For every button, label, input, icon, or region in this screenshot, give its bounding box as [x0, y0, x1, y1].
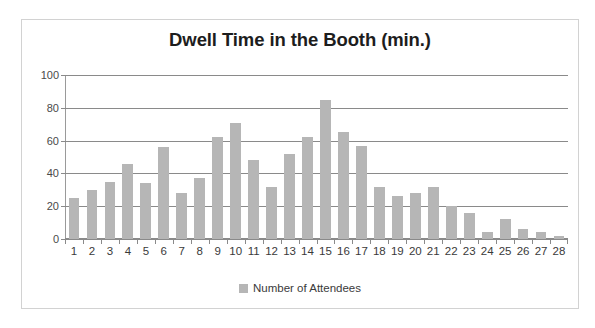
x-tick-label: 25 [499, 245, 512, 257]
x-tick-mark [119, 239, 120, 244]
x-tick-label: 4 [125, 245, 131, 257]
bar [158, 147, 169, 239]
bar [230, 123, 241, 239]
y-tick-label: 40 [47, 167, 59, 179]
y-tick-label: 100 [41, 69, 59, 81]
x-tick-mark [245, 239, 246, 244]
bar [69, 198, 80, 239]
x-tick-label: 16 [337, 245, 350, 257]
y-tick-label: 0 [53, 233, 59, 245]
x-tick-label: 24 [481, 245, 494, 257]
x-tick-mark [227, 239, 228, 244]
x-tick-mark [65, 239, 66, 244]
bar [194, 178, 205, 239]
bar [392, 196, 403, 239]
x-tick-label: 2 [89, 245, 95, 257]
x-tick-label: 3 [107, 245, 113, 257]
x-tick-label: 19 [391, 245, 404, 257]
y-tick-label: 20 [47, 200, 59, 212]
bar [266, 187, 277, 239]
bar [212, 137, 223, 239]
bar [140, 183, 151, 239]
chart-legend: Number of Attendees [22, 282, 578, 294]
x-tick-mark [550, 239, 551, 244]
x-tick-mark [101, 239, 102, 244]
bar-series [65, 75, 568, 239]
x-tick-mark [209, 239, 210, 244]
x-tick-label: 1 [71, 245, 77, 257]
x-tick-label: 14 [301, 245, 314, 257]
x-tick-mark [83, 239, 84, 244]
x-tick-mark [137, 239, 138, 244]
x-tick-label: 17 [355, 245, 368, 257]
bar [122, 164, 133, 239]
x-tick-mark [370, 239, 371, 244]
y-tick-label: 60 [47, 135, 59, 147]
bar [410, 193, 421, 239]
x-tick-mark [424, 239, 425, 244]
plot-area: 020406080100 123456789101112131415161718… [65, 75, 568, 239]
x-tick-mark [460, 239, 461, 244]
x-axis-ticks: 1234567891011121314151617181920212223242… [65, 239, 568, 244]
bar [464, 213, 475, 239]
bar [87, 190, 98, 239]
x-tick-label: 26 [517, 245, 530, 257]
x-tick-label: 9 [214, 245, 220, 257]
x-tick-label: 20 [409, 245, 422, 257]
bar [374, 187, 385, 239]
x-tick-label: 5 [143, 245, 149, 257]
x-tick-mark [263, 239, 264, 244]
x-tick-mark [191, 239, 192, 244]
x-tick-label: 18 [373, 245, 386, 257]
bar [284, 154, 295, 239]
chart-container: Dwell Time in the Booth (min.) 020406080… [21, 19, 579, 309]
bar [446, 206, 457, 239]
bar [105, 182, 116, 239]
bar [500, 219, 511, 239]
x-tick-mark [496, 239, 497, 244]
x-tick-label: 10 [229, 245, 242, 257]
legend-label: Number of Attendees [253, 282, 361, 294]
x-tick-label: 27 [535, 245, 548, 257]
x-tick-mark [514, 239, 515, 244]
x-tick-label: 15 [319, 245, 332, 257]
x-tick-mark [442, 239, 443, 244]
x-tick-mark [173, 239, 174, 244]
x-tick-mark [352, 239, 353, 244]
x-tick-label: 21 [427, 245, 440, 257]
x-tick-mark [532, 239, 533, 244]
x-tick-mark [388, 239, 389, 244]
x-tick-label: 22 [445, 245, 458, 257]
chart-title: Dwell Time in the Booth (min.) [22, 29, 578, 51]
x-tick-label: 11 [248, 245, 260, 257]
x-tick-mark [155, 239, 156, 244]
y-tick-label: 80 [47, 102, 59, 114]
bar [320, 100, 331, 239]
bar [356, 146, 367, 239]
bar [248, 160, 259, 239]
bar [176, 193, 187, 239]
x-tick-label: 23 [463, 245, 476, 257]
bar [518, 229, 529, 239]
bar [428, 187, 439, 239]
x-tick-label: 8 [197, 245, 203, 257]
x-tick-label: 28 [553, 245, 566, 257]
x-tick-label: 12 [265, 245, 278, 257]
x-tick-label: 6 [161, 245, 167, 257]
x-tick-mark [299, 239, 300, 244]
x-tick-mark [567, 239, 568, 244]
x-tick-label: 13 [283, 245, 296, 257]
x-tick-mark [334, 239, 335, 244]
x-tick-mark [406, 239, 407, 244]
bar [302, 137, 313, 239]
legend-swatch-icon [239, 284, 248, 293]
x-tick-label: 7 [179, 245, 185, 257]
bar [338, 132, 349, 239]
x-tick-mark [478, 239, 479, 244]
x-tick-mark [317, 239, 318, 244]
x-tick-mark [281, 239, 282, 244]
